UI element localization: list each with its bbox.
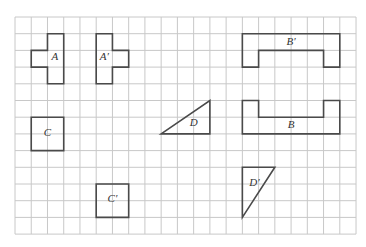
shape-label: C: [44, 126, 52, 138]
shape-label: D: [189, 116, 198, 128]
shape-label: C′: [108, 192, 118, 204]
shape-label: D′: [248, 176, 260, 188]
shape-label: B′: [287, 35, 297, 47]
shape-label: A′: [99, 50, 110, 62]
shape-label: B: [288, 118, 295, 130]
shape-label: A: [50, 50, 58, 62]
grid-diagram: AA′B′BCC′DD′: [0, 0, 366, 247]
shapes-layer: AA′B′BCC′DD′: [31, 34, 340, 218]
grid-lines: [15, 17, 356, 234]
